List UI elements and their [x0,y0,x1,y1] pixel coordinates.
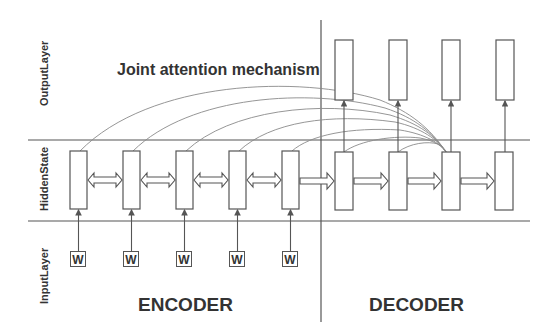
output-cell-2 [389,40,407,100]
encoder-cell-4 [229,151,246,209]
input-token-3: W [176,251,192,267]
decoder-cell-3 [442,152,460,210]
input-token-4: W [229,251,245,267]
output-cell-1 [335,40,353,100]
output-layer-label: OutputLayer [38,41,50,106]
input-token-2: W [123,251,139,267]
decoder-cell-4 [495,152,513,210]
encoder-decoder-diagram [0,0,557,335]
encoder-cell-3 [176,151,193,209]
output-cell-3 [442,40,460,100]
input-token-1: W [70,251,86,267]
input-arrows [79,210,291,251]
encoder-label: ENCODER [138,294,233,316]
decoder-cell-1 [335,152,353,210]
output-cell-4 [496,40,514,100]
encoder-cell-2 [123,151,140,209]
output-layer [335,40,514,100]
decoder-label: DECODER [369,294,464,316]
hidden-state-label: HiddenState [38,147,50,211]
encoder-cell-5 [282,151,299,209]
diagram-title: Joint attention mechanism [117,61,320,79]
input-layer-label: InputLayer [38,248,50,304]
input-token-5: W [282,251,298,267]
encoder-cell-1 [70,151,87,209]
decoder-cell-2 [389,152,407,210]
